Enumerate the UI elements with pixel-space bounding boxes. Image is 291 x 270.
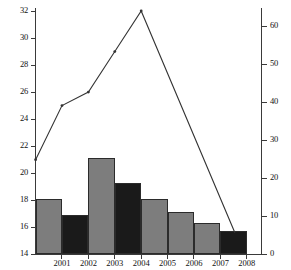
line-marker <box>113 50 116 53</box>
line-marker <box>140 10 143 13</box>
line-marker <box>61 104 64 107</box>
line-markers <box>34 10 142 161</box>
chart-container: 14161820222426283032 0102030405060 20012… <box>0 0 291 270</box>
line-series-svg <box>0 0 291 270</box>
line-path <box>36 11 235 233</box>
line-marker <box>34 158 37 161</box>
line-marker <box>87 91 90 94</box>
